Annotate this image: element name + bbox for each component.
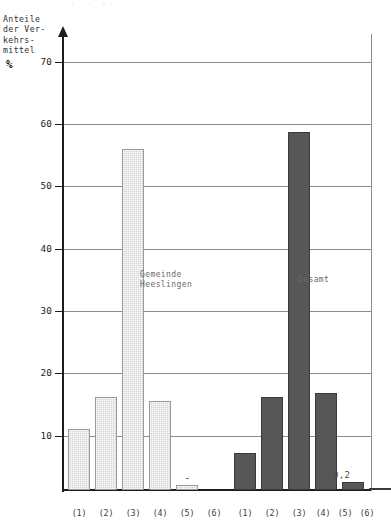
ytick-label-40: 40 <box>30 243 52 254</box>
xtick-left-1: (1) <box>68 508 90 518</box>
xtick-right-2: (2) <box>261 508 283 518</box>
xtick-right-1: (1) <box>234 508 256 518</box>
xtick-right-6: (6) <box>356 508 378 518</box>
xtick-right-5: (5) <box>334 508 356 518</box>
ytick-label-30: 30 <box>30 305 52 316</box>
ytick-label-60: 60 <box>30 118 52 129</box>
y-axis-arrow-icon <box>58 26 68 37</box>
bar-gesamt-6 <box>369 488 391 490</box>
ytick-label-10: 10 <box>30 430 52 441</box>
xtick-left-2: (2) <box>95 508 117 518</box>
ytick-label-50: 50 <box>30 180 52 191</box>
xtick-left-6: (6) <box>203 508 225 518</box>
bar-gesamt-2 <box>261 397 283 490</box>
xtick-right-4: (4) <box>312 508 334 518</box>
xtick-left-3: (3) <box>122 508 144 518</box>
annotation-value-gesamt-6: 0,2 <box>333 470 350 480</box>
xtick-left-5: (5) <box>176 508 198 518</box>
xtick-left-4: (4) <box>149 508 171 518</box>
group-caption-gesamt: Gesamt <box>298 275 329 285</box>
bar-heeslingen-2 <box>95 397 117 490</box>
bar-gesamt-3 <box>288 132 310 490</box>
ytick-label-20: 20 <box>30 367 52 378</box>
group-caption-heeslingen: Gemeinde Heeslingen <box>140 270 192 290</box>
cut-off-header-text: · · ·· <box>70 0 310 12</box>
y-axis-caption: Anteile der Ver- kehrs- mittel <box>3 14 46 56</box>
annotation-zero-dash-heeslingen: - <box>184 472 191 483</box>
bar-heeslingen-5 <box>176 485 198 490</box>
bar-gesamt-1 <box>234 453 256 491</box>
ytick-label-70: 70 <box>30 56 52 67</box>
percent-symbol: % <box>6 58 13 71</box>
xtick-right-3: (3) <box>288 508 310 518</box>
bar-heeslingen-4 <box>149 401 171 490</box>
bar-heeslingen-1 <box>68 429 90 490</box>
bar-heeslingen-3 <box>122 149 144 490</box>
bar-gesamt-5 <box>342 482 364 490</box>
